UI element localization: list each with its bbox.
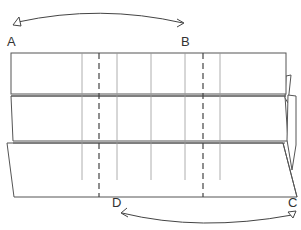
folding-diagram (0, 0, 301, 230)
label-b: B (181, 35, 190, 48)
paper-layer-2 (11, 96, 288, 143)
label-c: C (288, 196, 297, 209)
paper-layer-1 (11, 53, 286, 96)
arrow-a-to-b (13, 13, 184, 27)
arrow-c-to-d (121, 208, 296, 223)
label-a: A (7, 35, 16, 48)
label-d: D (112, 196, 121, 209)
paper-layer-3 (7, 143, 297, 197)
